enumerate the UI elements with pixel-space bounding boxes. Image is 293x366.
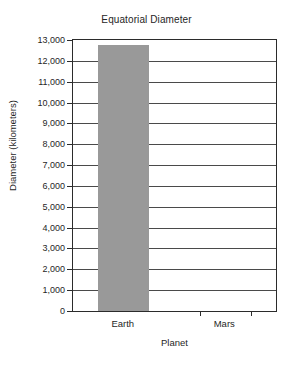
y-tick-label: 10,000 — [37, 98, 65, 108]
x-tick-mark — [200, 311, 201, 316]
y-tick-label: 6,000 — [42, 181, 65, 191]
y-tick-mark — [67, 61, 73, 62]
y-tick-label: 5,000 — [42, 202, 65, 212]
plot-area: 13,00012,00011,00010,0009,0008,0007,0006… — [72, 39, 277, 312]
y-tick-mark — [67, 186, 73, 187]
y-tick-label: 7,000 — [42, 160, 65, 170]
y-tick-label: 13,000 — [37, 35, 65, 45]
y-tick-mark — [67, 248, 73, 249]
y-tick-mark — [67, 207, 73, 208]
y-tick-mark — [67, 311, 73, 312]
y-tick-mark — [67, 40, 73, 41]
chart-title: Equatorial Diameter — [0, 14, 293, 25]
y-tick-mark — [67, 290, 73, 291]
y-tick-mark — [67, 103, 73, 104]
x-category-label-earth: Earth — [111, 318, 134, 329]
x-tick-mark — [251, 311, 252, 316]
bar-chart: Equatorial Diameter 13,00012,00011,00010… — [0, 0, 293, 366]
y-tick-mark — [67, 144, 73, 145]
bar-earth — [98, 45, 149, 311]
y-tick-label: 11,000 — [38, 77, 65, 87]
y-tick-mark — [67, 269, 73, 270]
y-tick-mark — [67, 165, 73, 166]
y-tick-label: 9,000 — [42, 118, 65, 128]
y-tick-mark — [67, 228, 73, 229]
y-tick-label: 0 — [60, 306, 65, 316]
y-tick-label: 1,000 — [42, 285, 65, 295]
y-tick-mark — [67, 82, 73, 83]
x-axis-title: Planet — [72, 337, 277, 348]
x-category-label-mars: Mars — [214, 318, 235, 329]
y-axis-title: Diameter (kilometers) — [7, 71, 18, 221]
y-tick-label: 3,000 — [42, 243, 65, 253]
y-tick-label: 2,000 — [42, 264, 65, 274]
y-tick-label: 4,000 — [42, 223, 65, 233]
y-tick-label: 12,000 — [37, 56, 65, 66]
y-tick-mark — [67, 123, 73, 124]
y-tick-label: 8,000 — [42, 139, 65, 149]
